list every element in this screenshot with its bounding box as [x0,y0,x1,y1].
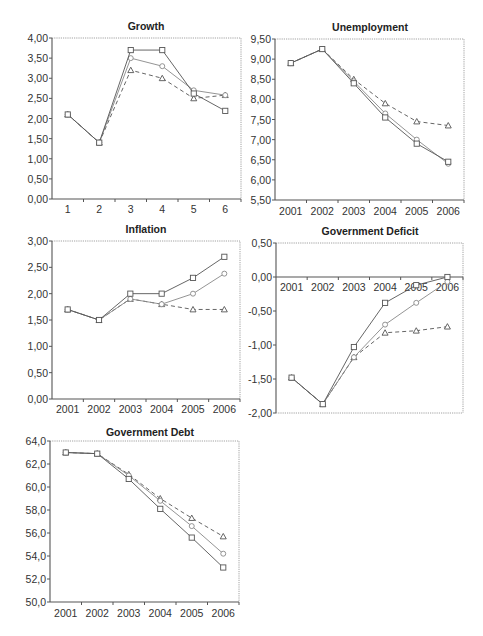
series-line [68,274,225,320]
circle-marker-icon [351,355,356,360]
square-marker-icon [222,254,227,259]
y-tick-label: 1,00 [28,153,49,165]
square-marker-icon [221,565,226,570]
chart-title: Unemployment [332,21,408,33]
circle-marker-icon [221,551,226,556]
y-tick-label: 0,00 [28,193,49,205]
chart-government-deficit: Government Deficit-2,00-1,50-1,00-0,500,… [248,225,463,419]
series-circle [289,279,450,406]
y-tick-label: 1,50 [28,133,49,145]
y-tick-label: 0,00 [252,271,273,283]
series-line [68,50,226,143]
triangle-marker-icon [128,67,134,72]
x-tick-label: 2004 [149,607,173,619]
circle-marker-icon [158,498,163,503]
series-line [66,453,224,568]
x-tick-label: 2003 [342,281,366,293]
y-tick-label: 1,00 [28,340,49,352]
square-marker-icon [126,476,131,481]
y-tick-label: 2,50 [28,92,49,104]
chart-title: Growth [128,20,165,32]
y-tick-label: 2,00 [28,113,49,125]
square-marker-icon [383,115,388,120]
square-marker-icon [320,402,325,407]
y-tick-label: 4,00 [28,32,49,44]
y-tick-label: 60,0 [26,481,47,493]
square-marker-icon [158,506,163,511]
y-tick-label: 0,50 [28,173,49,185]
square-marker-icon [351,344,356,349]
x-tick-label: 3 [128,203,134,215]
square-marker-icon [65,112,70,117]
x-tick-label: 2001 [54,607,78,619]
series-circle [65,56,228,146]
series-line [291,49,449,164]
y-tick-label: 3,50 [28,52,49,64]
square-marker-icon [351,81,356,86]
square-marker-icon [382,300,387,305]
charts-canvas: Growth0,000,501,001,502,002,503,003,504,… [0,0,483,636]
square-marker-icon [65,307,70,312]
series-square [63,450,226,570]
triangle-marker-icon [189,515,195,520]
circle-marker-icon [159,302,164,307]
y-tick-label: 8,50 [251,73,272,85]
circle-marker-icon [189,524,194,529]
y-tick-label: 52,0 [26,573,47,585]
series-line [292,282,448,404]
square-marker-icon [414,283,419,288]
square-marker-icon [128,47,133,52]
square-marker-icon [223,108,228,113]
square-marker-icon [160,47,165,52]
square-marker-icon [97,140,102,145]
y-tick-label: 6,50 [251,154,272,166]
square-marker-icon [446,159,451,164]
plot-frame [50,441,239,602]
y-tick-label: 7,00 [251,134,272,146]
square-marker-icon [190,275,195,280]
y-tick-label: 56,0 [26,527,47,539]
circle-marker-icon [191,291,196,296]
x-tick-label: 2005 [180,607,204,619]
triangle-marker-icon [220,533,226,538]
y-tick-label: 64,0 [26,435,47,447]
y-tick-label: 6,00 [251,174,272,186]
x-tick-label: 2002 [87,403,111,415]
x-tick-label: 2006 [212,607,236,619]
square-marker-icon [95,451,100,456]
chart-government-debt: Government Debt50,052,054,056,058,060,06… [26,426,239,619]
x-tick-label: 2002 [311,281,335,293]
square-marker-icon [414,141,419,146]
series-square [65,254,227,322]
series-line [68,70,226,142]
chart-title: Government Debt [106,426,195,438]
x-tick-label: 2004 [373,281,397,293]
series-line [291,49,449,162]
x-tick-label: 1 [65,203,71,215]
chart-unemployment: Unemployment5,506,006,507,007,508,008,50… [251,21,464,217]
series-triangle [289,324,451,407]
y-tick-label: 3,00 [28,235,49,247]
x-tick-label: 4 [159,203,165,215]
x-tick-label: 2001 [280,281,304,293]
triangle-marker-icon [382,330,388,335]
square-marker-icon [189,535,194,540]
series-line [68,299,225,320]
y-tick-label: 0,50 [252,237,273,249]
chart-title: Government Deficit [322,225,419,237]
chart-title: Inflation [126,223,167,235]
square-marker-icon [288,61,293,66]
series-triangle [288,46,452,128]
y-tick-label: 5,50 [251,194,272,206]
y-tick-label: 62,0 [26,458,47,470]
y-tick-label: 3,00 [28,72,49,84]
circle-marker-icon [383,322,388,327]
plot-frame [276,243,463,413]
x-tick-label: 6 [222,203,228,215]
square-marker-icon [191,91,196,96]
x-tick-label: 5 [191,203,197,215]
circle-marker-icon [160,64,165,69]
circle-marker-icon [414,300,419,305]
series-circle [63,450,226,556]
y-tick-label: -1,50 [248,373,272,385]
